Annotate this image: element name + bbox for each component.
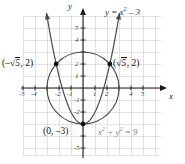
circle-equation-label: x2 + y2 = 9 <box>98 128 138 137</box>
point-left-open-paren: (– <box>2 58 10 68</box>
point-label-right: (√5, 2) <box>113 59 139 69</box>
y-tick-label--5: -5 <box>74 145 80 152</box>
y-axis-label-text: y <box>68 1 72 11</box>
x-tick-label--5: -5 <box>19 91 25 98</box>
x-axis-label: x <box>169 92 173 101</box>
point-right-radical-group: √5 <box>116 59 126 69</box>
point-label-left: (–√5, 2) <box>2 59 33 69</box>
y-tick-label-4: 4 <box>75 37 79 44</box>
x-tick-label--2: -2 <box>55 91 61 98</box>
parabola-equation-prefix: y = x <box>105 7 124 17</box>
x-tick-label-1: 1 <box>93 91 97 98</box>
x-tick-label-2: 2 <box>105 91 109 98</box>
graph-figure: y x -5 -4 -2 -1 1 2 4 5 5 4 2 1 -1 -2 -5… <box>0 0 185 164</box>
x-tick-label-4: 4 <box>129 91 133 98</box>
intersection-point-vertex <box>81 122 86 127</box>
y-tick-label-2: 2 <box>75 61 79 68</box>
x-tick-label--1: -1 <box>67 91 73 98</box>
point-left-close: , 2) <box>20 58 33 68</box>
intersection-point-left <box>54 62 59 67</box>
parabola-equation-label: y = x2 – 3 <box>105 8 140 17</box>
circle-equation-tail: = 9 <box>123 127 138 137</box>
y-tick-label--1: -1 <box>74 97 80 104</box>
intersection-point-right <box>107 62 112 67</box>
x-tick-label--4: -4 <box>31 91 37 98</box>
point-label-vertex: (0, –3) <box>43 127 68 137</box>
x-tick-label-5: 5 <box>141 91 145 98</box>
point-right-close: , 2) <box>127 58 140 68</box>
y-axis <box>80 8 86 158</box>
y-axis-label: y <box>68 2 72 11</box>
y-tick-label-1: 1 <box>75 73 79 80</box>
point-left-radical-group: √5 <box>10 59 20 69</box>
x-axis-label-text: x <box>169 91 173 101</box>
y-tick-label-5: 5 <box>75 25 79 32</box>
parabola-equation-suffix: – 3 <box>127 7 141 17</box>
circle-equation-plus: + <box>105 127 116 137</box>
graph-canvas <box>0 0 185 164</box>
y-tick-label--2: -2 <box>74 109 80 116</box>
